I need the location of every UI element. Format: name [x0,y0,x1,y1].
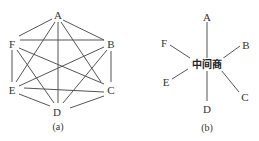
edge-hub-c [221,70,239,92]
diagram-canvas: A B C D E F (a) 中间商 A B C D E F (b) [0,0,259,141]
node-e-label: E [9,84,16,96]
node-a-label: A [54,9,62,21]
edge-a-c [61,22,101,82]
edge-d-e [19,94,50,106]
node-b-a-label: A [203,11,211,23]
node-b-f-label: F [161,37,167,49]
caption-a: (a) [52,121,63,133]
edge-a-e [16,22,55,82]
edge-hub-f [170,45,190,58]
hub-label-intermediary: 中间商 [192,58,222,70]
node-b-b-label: B [242,39,249,51]
edge-hub-b [222,46,240,59]
edge-c-d [70,96,104,108]
edge-a-b [63,20,104,40]
node-b-d-label: D [203,103,211,115]
node-f-label: F [9,38,15,50]
diagram-a-edges [12,19,111,108]
node-c-label: C [107,84,114,96]
node-b-c-label: C [241,91,248,103]
edge-hub-e [172,69,188,79]
node-b-label: B [107,38,114,50]
edge-c-e [24,88,104,92]
caption-b: (b) [201,122,213,134]
diagram-a: A B C D E F (a) [9,9,115,133]
node-b-e-label: E [163,76,170,88]
node-d-label: D [53,106,61,118]
diagram-b: 中间商 A B C D E F (b) [161,11,250,134]
